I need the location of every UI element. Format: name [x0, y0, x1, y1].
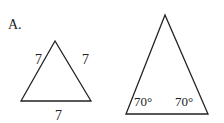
angle-label-right: 70° — [175, 94, 193, 109]
angle-label-left: 70° — [134, 94, 152, 109]
isosceles-triangle: 70° 70° — [126, 15, 208, 114]
side-label-left: 7 — [35, 52, 42, 67]
side-label-right: 7 — [82, 52, 89, 67]
side-label-bottom: 7 — [55, 108, 62, 123]
equilateral-triangle: 7 7 7 — [21, 41, 91, 123]
triangles-diagram: A. 7 7 7 70° 70° — [0, 0, 224, 123]
option-label: A. — [8, 17, 22, 32]
